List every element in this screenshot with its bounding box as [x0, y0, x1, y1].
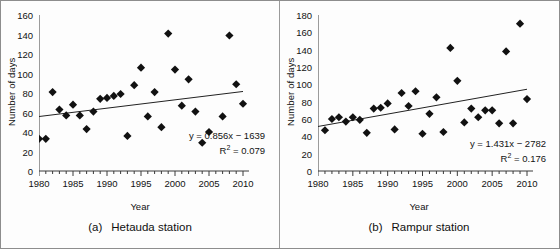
x-tick-label: 2010 — [232, 178, 253, 189]
y-tick-label: 0 — [28, 166, 33, 177]
x-tick-label: 1985 — [342, 178, 363, 189]
x-tick-labels-b: 1980198519901995200020052010 — [318, 178, 527, 192]
y-tick-label: 140 — [17, 29, 33, 40]
y-tick-label: 120 — [17, 49, 33, 60]
x-tick-label: 2010 — [516, 178, 537, 189]
scatter-plot-a — [39, 15, 253, 183]
x-axis-title-a: Year — [1, 201, 279, 212]
figure-container: Number of days 020406080100120140160 198… — [0, 0, 560, 249]
x-tick-label: 2005 — [482, 178, 503, 189]
y-tick-label: 20 — [22, 146, 33, 157]
x-tick-label: 2005 — [198, 178, 219, 189]
r-squared-b: R2 = 0.176 — [470, 151, 546, 166]
regression-annotation-a: y = 0.856x − 1639 R2 = 0.079 — [189, 130, 265, 158]
y-tick-label: 40 — [301, 131, 312, 142]
y-tick-label: 40 — [22, 127, 33, 138]
regression-annotation-b: y = 1.431x − 2782 R2 = 0.176 — [470, 138, 546, 166]
y-tick-label: 80 — [22, 88, 33, 99]
panel-caption-label-b: (b) — [368, 221, 382, 233]
x-tick-label: 1995 — [412, 178, 433, 189]
y-tick-label: 100 — [296, 79, 312, 90]
x-tick-label: 1985 — [62, 178, 83, 189]
y-tick-label: 160 — [296, 27, 312, 38]
panel-caption-text-b: Rampur station — [392, 221, 470, 233]
x-tick-label: 1980 — [307, 178, 328, 189]
y-tick-label: 100 — [17, 68, 33, 79]
panel-caption-label-a: (a) — [88, 221, 102, 233]
y-tick-label: 140 — [296, 44, 312, 55]
r-squared-a: R2 = 0.079 — [189, 143, 265, 158]
panel-hetauda: Number of days 020406080100120140160 198… — [1, 1, 279, 248]
y-tick-label: 80 — [301, 96, 312, 107]
y-tick-labels-b: 020406080100120140160180 — [280, 15, 312, 171]
equation-text-b: y = 1.431x − 2782 — [470, 138, 546, 151]
x-axis-title-b: Year — [280, 201, 558, 212]
y-tick-label: 120 — [296, 62, 312, 73]
x-tick-label: 1980 — [28, 178, 49, 189]
panel-caption-text-a: Hetauda station — [111, 221, 192, 233]
panel-caption-a: (a)Hetauda station — [1, 221, 279, 233]
panel-rampur: Number of days 020406080100120140160180 … — [280, 1, 558, 248]
y-tick-label: 0 — [307, 166, 312, 177]
x-tick-label: 1995 — [130, 178, 151, 189]
y-tick-label: 20 — [301, 148, 312, 159]
x-tick-label: 2000 — [447, 178, 468, 189]
panel-caption-b: (b)Rampur station — [280, 221, 558, 233]
y-tick-label: 160 — [17, 10, 33, 21]
y-tick-label: 180 — [296, 10, 312, 21]
equation-text-a: y = 0.856x − 1639 — [189, 130, 265, 143]
x-tick-label: 1990 — [96, 178, 117, 189]
y-tick-labels-a: 020406080100120140160 — [1, 15, 33, 171]
plot-area-a — [39, 15, 253, 183]
x-tick-labels-a: 1980198519901995200020052010 — [39, 178, 243, 192]
y-tick-label: 60 — [22, 107, 33, 118]
y-tick-label: 60 — [301, 114, 312, 125]
x-tick-label: 1990 — [377, 178, 398, 189]
x-tick-label: 2000 — [164, 178, 185, 189]
